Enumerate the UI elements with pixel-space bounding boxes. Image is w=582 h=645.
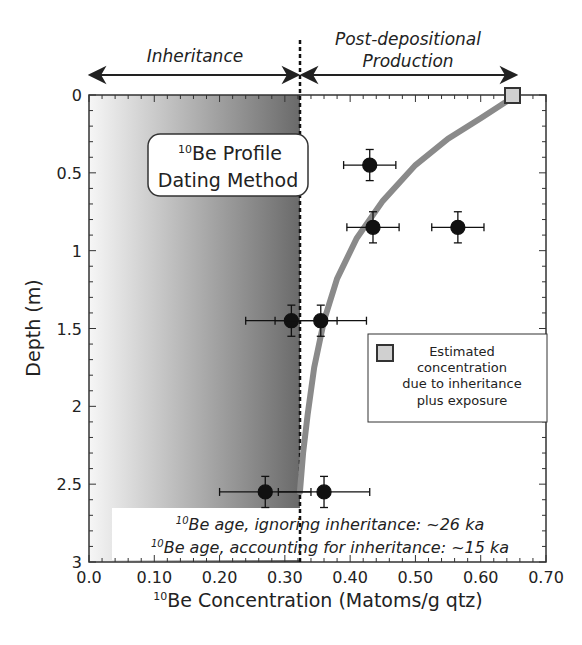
y-tick-label: 1.5	[57, 320, 82, 339]
x-axis-label: 10Be Concentration (Matoms/g qtz)	[153, 589, 483, 611]
y-tick-label: 0	[72, 86, 82, 105]
method-title: 10Be Profile	[178, 142, 282, 164]
legend-text-3: due to inheritance	[402, 376, 521, 391]
model-curve	[300, 95, 517, 492]
legend-text-1: Estimated	[429, 344, 495, 359]
production-label-2: Production	[362, 51, 453, 71]
legend-text-2: concentration	[417, 360, 507, 375]
x-tick-label: 0.60	[463, 568, 499, 587]
legend-text-4: plus exposure	[417, 393, 508, 408]
age-accounting-inheritance: 10Be age, accounting for inheritance: ~1…	[151, 538, 509, 557]
inheritance-arrow	[90, 68, 298, 82]
x-tick-label: 0.10	[136, 568, 172, 587]
y-tick-label: 3	[72, 553, 82, 572]
estimated-concentration-marker	[505, 88, 520, 103]
legend-marker-icon	[377, 345, 393, 361]
x-tick-label: 0.70	[528, 568, 564, 587]
y-tick-label: 2.5	[57, 475, 82, 494]
chart-root: Inheritance Post-depositional Production…	[0, 0, 582, 645]
x-tick-label: 0.40	[332, 568, 368, 587]
x-tick-label: 0.50	[398, 568, 434, 587]
age-ignoring-inheritance: 10Be age, ignoring inheritance: ~26 ka	[176, 515, 484, 534]
y-tick-label: 0.5	[57, 164, 82, 183]
x-tick-label: 0.30	[267, 568, 303, 587]
y-tick-labels: 00.511.522.53	[57, 86, 82, 572]
method-title-2: Dating Method	[158, 169, 298, 191]
production-label-1: Post-depositional	[335, 29, 481, 49]
y-tick-label: 1	[72, 242, 82, 261]
y-tick-label: 2	[72, 397, 82, 416]
data-point	[432, 212, 484, 243]
x-tick-labels: 0.00.100.200.300.400.500.600.70	[76, 568, 564, 587]
data-point	[344, 149, 396, 180]
inheritance-label: Inheritance	[147, 46, 243, 66]
y-axis-label: Depth (m)	[22, 279, 44, 376]
x-tick-label: 0.20	[202, 568, 238, 587]
